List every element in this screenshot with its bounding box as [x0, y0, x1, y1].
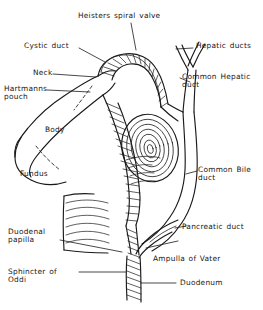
pancreatic-duct — [136, 220, 178, 258]
label-cystic-duct: Cystic duct — [24, 42, 69, 51]
label-hartmanns-pouch-line2: pouch — [4, 93, 28, 102]
label-heisters-spiral-valve: Heisters spiral valve — [78, 12, 160, 21]
label-pancreatic-duct: Pancreatic duct — [182, 223, 244, 232]
label-duodenum: Duodenum — [180, 279, 223, 288]
label-common-hepatic-duct-line2: duct — [182, 81, 199, 90]
leader-neck — [53, 74, 96, 77]
leader-heisters-spiral-valve — [131, 23, 136, 50]
label-body: Body — [45, 126, 65, 135]
leader-ampulla-of-vater — [146, 241, 178, 248]
cystic-duct-spiral-valve — [98, 54, 168, 107]
duodenal-wall-folds — [63, 156, 160, 253]
label-fundus: Fundus — [20, 170, 48, 179]
leader-cystic-duct — [79, 48, 105, 62]
leader-common-bile-duct — [186, 171, 197, 174]
label-duodenal-papilla-line2: papilla — [8, 236, 34, 245]
leader-hepatic-ducts — [176, 48, 193, 49]
label-neck: Neck — [33, 69, 52, 78]
label-hepatic-ducts: Hepatic ducts — [196, 42, 251, 51]
label-ampulla-of-vater: Ampulla of Vater — [153, 255, 221, 264]
biliary-system-diagram: Heisters spiral valve Cystic duct Neck H… — [0, 0, 263, 310]
label-sphincter-of-oddi-line2: Oddi — [8, 276, 26, 285]
leader-hartmanns-pouch — [47, 90, 90, 92]
duct-lumen-cutaway — [115, 109, 185, 188]
ampulla-and-sphincter — [126, 225, 141, 302]
label-common-bile-duct-line2: duct — [198, 174, 215, 183]
bile-duct-mucosal-folds — [103, 95, 140, 226]
